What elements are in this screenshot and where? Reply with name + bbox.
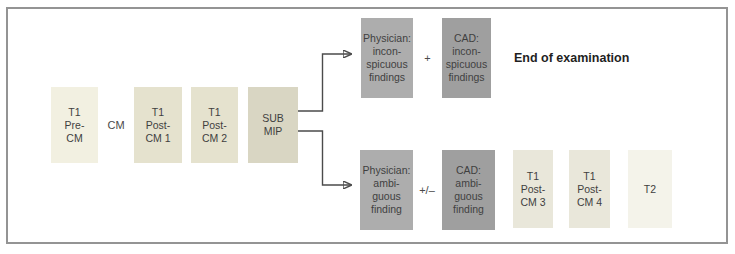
operator-plus: + bbox=[414, 18, 441, 98]
box-sub-mip: SUB MIP bbox=[248, 87, 298, 163]
operator-plus-minus: +/– bbox=[412, 150, 442, 230]
box-physician-ambiguous: Physician: ambi- guous finding bbox=[360, 150, 413, 230]
box-physician-inconspicuous: Physician: incon- spicuous findings bbox=[361, 18, 413, 98]
box-t2: T2 bbox=[628, 150, 672, 228]
label-cm: CM bbox=[100, 87, 132, 163]
text-end-of-examination: End of examination bbox=[514, 18, 629, 98]
box-cad-ambiguous: CAD: ambi- guous finding bbox=[442, 150, 495, 230]
box-t1-post-cm1: T1 Post- CM 1 bbox=[134, 87, 182, 163]
box-cad-inconspicuous: CAD: incon- spicuous findings bbox=[442, 18, 491, 98]
box-t1-post-cm4: T1 Post- CM 4 bbox=[569, 150, 610, 228]
figure-canvas: T1 Pre- CM CM T1 Post- CM 1 T1 Post- CM … bbox=[0, 0, 735, 254]
box-t1-post-cm2: T1 Post- CM 2 bbox=[191, 87, 238, 163]
box-t1-pre-cm: T1 Pre- CM bbox=[51, 87, 98, 163]
box-t1-post-cm3: T1 Post- CM 3 bbox=[513, 150, 553, 228]
